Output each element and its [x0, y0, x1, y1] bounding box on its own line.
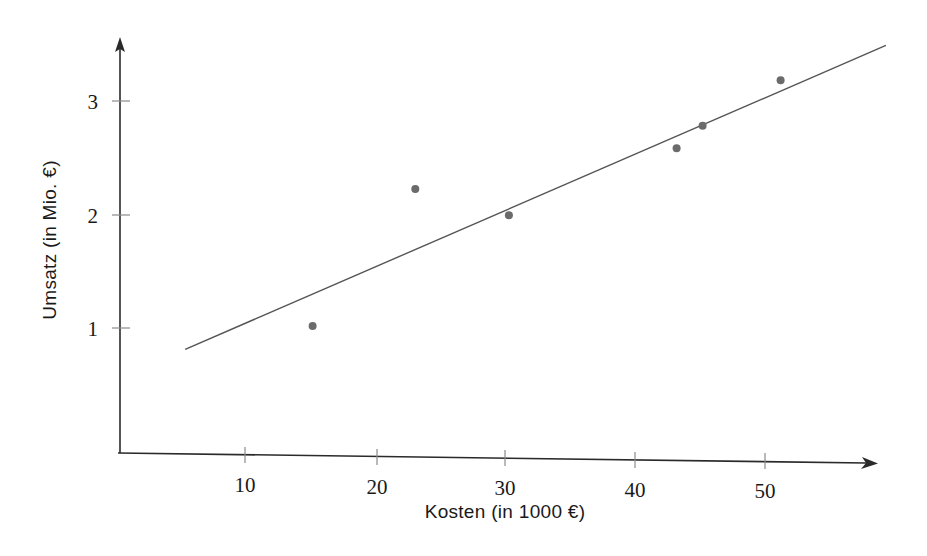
scatter-chart: 3 2 1 10 20 30 40 50 Kosten (in 1000 €) … [0, 0, 927, 556]
y-tick-label-3: 3 [88, 90, 99, 114]
y-axis-ticks [112, 101, 130, 328]
data-point-group [309, 76, 785, 330]
x-axis-line [118, 453, 866, 463]
regression-line [185, 45, 886, 349]
x-tick-label-50: 50 [755, 479, 776, 503]
x-tick-label-40: 40 [625, 478, 646, 502]
x-axis-ticks [245, 447, 765, 469]
x-axis-title: Kosten (in 1000 €) [425, 501, 586, 522]
y-tick-label-2: 2 [88, 204, 99, 228]
data-point [309, 322, 317, 330]
data-point [699, 122, 707, 130]
data-point [777, 76, 785, 84]
y-axis-title: Umsatz (in Mio. €) [39, 160, 60, 320]
data-point [411, 185, 419, 193]
chart-canvas: 3 2 1 10 20 30 40 50 Kosten (in 1000 €) … [0, 0, 927, 556]
data-point [505, 211, 513, 219]
x-tick-label-30: 30 [495, 476, 516, 500]
x-axis [118, 453, 878, 469]
data-point [673, 144, 681, 152]
x-tick-label-20: 20 [367, 475, 388, 499]
y-axis [115, 37, 125, 453]
y-tick-label-1: 1 [88, 317, 99, 341]
x-tick-label-10: 10 [235, 473, 256, 497]
